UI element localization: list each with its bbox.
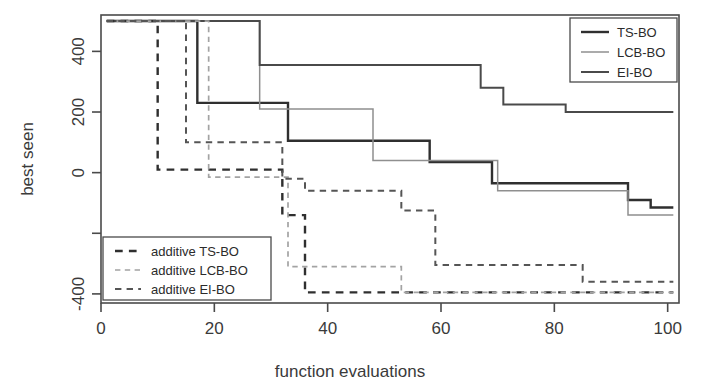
x-axis-title: function evaluations [275, 362, 425, 381]
legend-label-additive-ts-bo: additive TS-BO [151, 244, 239, 259]
chart-figure: 020406080100 4002000-400 function evalua… [0, 0, 703, 392]
y-tick-label: 200 [70, 98, 89, 126]
legend-top-right[interactable]: TS-BOLCB-BOEI-BO [570, 18, 677, 82]
x-tick-label: 80 [545, 319, 564, 338]
legend-label-ts-bo: TS-BO [617, 25, 657, 40]
x-axis-ticks [101, 303, 668, 312]
x-tick-label: 100 [653, 319, 681, 338]
legend-bottom-left[interactable]: additive TS-BOadditive LCB-BOadditive EI… [103, 237, 271, 300]
y-axis-ticks [92, 51, 101, 294]
best-seen-vs-function-evaluations-chart: 020406080100 4002000-400 function evalua… [0, 0, 703, 392]
y-tick-label: 0 [70, 168, 89, 177]
y-axis-title: best seen [18, 122, 37, 196]
x-axis-tick-labels: 020406080100 [96, 319, 682, 338]
x-tick-label: 20 [205, 319, 224, 338]
x-tick-label: 40 [318, 319, 337, 338]
x-tick-label: 60 [432, 319, 451, 338]
legend-label-additive-ei-bo: additive EI-BO [151, 282, 235, 297]
legend-label-lcb-bo: LCB-BO [617, 45, 665, 60]
legend-label-additive-lcb-bo: additive LCB-BO [151, 263, 248, 278]
y-axis-tick-labels: 4002000-400 [70, 37, 89, 311]
y-tick-label: -400 [70, 277, 89, 311]
legend-label-ei-bo: EI-BO [617, 65, 652, 80]
y-tick-label: 400 [70, 37, 89, 65]
x-tick-label: 0 [96, 319, 105, 338]
